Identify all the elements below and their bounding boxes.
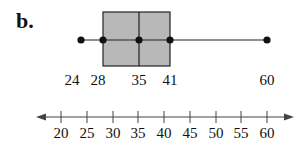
tick-labels: 20 25 30 35 40 45 50 55 60 <box>54 125 275 141</box>
svg-text:45: 45 <box>183 125 198 141</box>
svg-text:35: 35 <box>132 72 147 88</box>
svg-text:40: 40 <box>157 125 172 141</box>
svg-text:25: 25 <box>80 125 95 141</box>
number-line: 20 25 30 35 40 45 50 55 60 <box>36 111 294 141</box>
svg-text:55: 55 <box>234 125 249 141</box>
svg-text:28: 28 <box>91 72 106 88</box>
point-labels: 24 28 35 41 60 <box>65 72 275 88</box>
svg-text:35: 35 <box>131 125 146 141</box>
svg-text:60: 60 <box>260 72 275 88</box>
svg-text:20: 20 <box>54 125 69 141</box>
svg-text:60: 60 <box>260 125 275 141</box>
svg-text:24: 24 <box>65 72 81 88</box>
svg-text:30: 30 <box>106 125 121 141</box>
svg-text:41: 41 <box>163 72 178 88</box>
box-plot: 24 28 35 41 60 20 25 30 35 40 45 50 55 6… <box>0 0 308 147</box>
svg-text:50: 50 <box>209 125 224 141</box>
